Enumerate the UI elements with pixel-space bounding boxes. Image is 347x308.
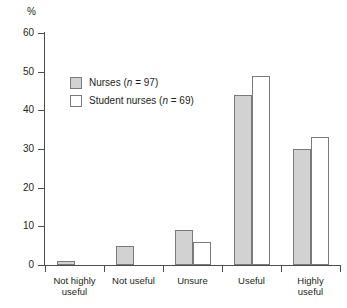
bar-student-nurses [311,137,329,265]
y-axis-tick-label: 20 [14,183,34,193]
y-axis-tick [38,226,44,227]
x-axis-tick [281,266,282,272]
y-axis-tick [38,72,44,73]
y-axis-tick-label: 0 [14,260,34,270]
y-axis-tick [38,188,44,189]
bar-chart: % 0102030405060 Not highlyusefulNot usef… [0,0,347,308]
bar-nurses [116,246,134,265]
x-axis-category-label-line: Highly [275,275,346,286]
y-axis-tick [38,33,44,34]
legend-swatch-icon [70,77,82,89]
y-axis-tick-label: 40 [14,105,34,115]
bar-nurses [175,230,193,265]
bar-nurses [57,261,75,265]
x-axis-line [44,265,341,266]
plot-area [45,33,340,265]
y-axis-tick [38,265,44,266]
legend-swatch-icon [70,95,82,107]
x-axis-tick [340,266,341,272]
legend-item-label: Nurses (n = 97) [89,77,158,89]
legend-item-nurses: Nurses (n = 97) [70,74,194,92]
chart-legend: Nurses (n = 97)Student nurses (n = 69) [70,74,194,110]
legend-item-label: Student nurses (n = 69) [89,95,194,107]
bar-student-nurses [252,76,270,265]
x-axis-tick [222,266,223,272]
bar-nurses [234,95,252,265]
legend-item-student-nurses: Student nurses (n = 69) [70,92,194,110]
x-axis-tick [163,266,164,272]
y-axis-unit-label: % [27,6,36,18]
x-axis-tick [45,266,46,272]
x-axis-category-label-line: useful [275,286,346,297]
y-axis-tick-label: 30 [14,144,34,154]
bar-student-nurses [193,242,211,265]
x-axis-category-label: Highlyuseful [275,275,346,297]
x-axis-tick [104,266,105,272]
bar-nurses [293,149,311,265]
y-axis-tick [38,149,44,150]
y-axis-tick-label: 60 [14,28,34,38]
y-axis-tick-label: 10 [14,221,34,231]
y-axis-tick-label: 50 [14,67,34,77]
y-axis-tick [38,110,44,111]
x-axis-category-label-line: useful [39,286,110,297]
